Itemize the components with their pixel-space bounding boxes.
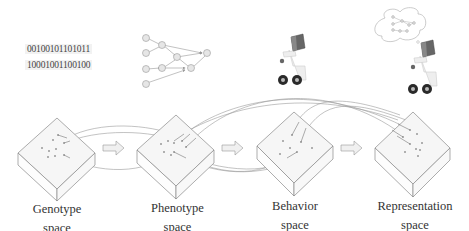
arrow-behavior-to-representation bbox=[341, 141, 362, 155]
neural-network-icon bbox=[143, 35, 211, 88]
genotype-space-box bbox=[18, 118, 95, 201]
wheeled-robot-icon bbox=[278, 34, 306, 85]
genotype-label-line2: space bbox=[17, 219, 97, 231]
mapping-curves-foreground bbox=[58, 122, 410, 158]
robot-with-thought-bubble-icon bbox=[375, 8, 437, 94]
phenotype-label-line2: space bbox=[135, 218, 220, 231]
phenotype-space-label: Phenotype space bbox=[135, 199, 220, 231]
mapping-curves bbox=[63, 98, 406, 171]
behavior-space-box bbox=[257, 112, 333, 196]
arrow-genotype-to-phenotype bbox=[103, 141, 124, 155]
representation-label-line1: Representation bbox=[365, 197, 465, 216]
representation-space-box bbox=[375, 112, 450, 197]
representation-space-label: Representation space bbox=[365, 197, 465, 231]
behavior-label-line2: space bbox=[255, 216, 335, 231]
arrow-phenotype-to-behavior bbox=[222, 141, 243, 155]
representation-label-line2: space bbox=[365, 216, 465, 231]
phenotype-space-box bbox=[137, 115, 214, 199]
genotype-label-line1: Genotype bbox=[17, 200, 97, 219]
phenotype-label-line1: Phenotype bbox=[135, 199, 220, 218]
behavior-label-line1: Behavior bbox=[255, 197, 335, 216]
genotype-space-label: Genotype space bbox=[17, 200, 97, 231]
behavior-space-label: Behavior space bbox=[255, 197, 335, 231]
